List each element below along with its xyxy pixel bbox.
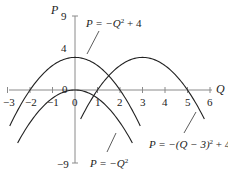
q-tick-label: 3: [140, 96, 146, 108]
q-tick-label: −3: [3, 96, 15, 108]
q-tick-label: 5: [185, 96, 191, 108]
eq2-text: P = −Q: [89, 157, 125, 169]
annotation-neg-q2-plus-4: P = −Q2 + 4: [85, 17, 142, 29]
annotation-arrow-2: [107, 133, 116, 152]
parabola-chart: P Q 9 4 0 −9 −3 −2 −1 0 1 2 3 4 5 6 P = …: [0, 0, 228, 171]
annotation-neg-q2: P = −Q2: [89, 157, 129, 169]
p-tick-label-9: 9: [61, 10, 67, 22]
q-tick-label: 0: [72, 96, 78, 108]
eq1-tail: + 4: [124, 17, 142, 29]
q-tick-label: 1: [95, 96, 101, 108]
annotation-arrow-3: [184, 112, 196, 133]
eq3-text: P = −(Q − 3): [148, 138, 210, 151]
q-tick-label: −1: [47, 96, 59, 108]
eq3-tail: + 4: [213, 138, 228, 150]
p-tick-label-neg9: −9: [57, 158, 69, 170]
p-axis-label: P: [50, 3, 59, 17]
q-axis-label: Q: [216, 82, 225, 96]
eq1-text: P = −Q: [85, 17, 121, 29]
annotation-neg-q-minus-3-sq-plus-4: P = −(Q − 3)2 + 4: [148, 138, 228, 151]
eq2-sup: 2: [125, 157, 129, 165]
p-tick-label-0: 0: [62, 83, 68, 95]
q-tick-label: 4: [162, 96, 168, 108]
q-tick-label: −2: [25, 96, 37, 108]
p-tick-label-4: 4: [61, 42, 67, 54]
q-tick-label: 2: [117, 96, 123, 108]
annotation-arrow-1: [87, 31, 99, 54]
q-tick-label: 6: [207, 96, 213, 108]
